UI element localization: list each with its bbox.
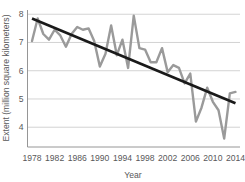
y-tick-label: 4 xyxy=(19,122,24,132)
x-tick-label: 1986 xyxy=(68,153,87,163)
x-tick-label: 2002 xyxy=(158,153,177,163)
x-tick-label: 1982 xyxy=(45,153,64,163)
chart-figure: 45678 1978198219861990199419982002200620… xyxy=(0,0,245,182)
x-axis-title: Year xyxy=(124,170,142,180)
x-tick-label: 2014 xyxy=(226,153,245,163)
x-tick-label: 2006 xyxy=(181,153,200,163)
sea-ice-extent-line-chart: 45678 1978198219861990199419982002200620… xyxy=(0,0,245,182)
y-tick-label: 5 xyxy=(19,94,24,104)
x-tick-label: 1978 xyxy=(22,153,41,163)
x-tick-label: 1994 xyxy=(113,153,132,163)
y-axis-title: Extent (million square kilometers) xyxy=(1,14,11,141)
y-tick-label: 8 xyxy=(19,9,24,19)
x-tick-label: 1998 xyxy=(135,153,154,163)
y-tick-label: 7 xyxy=(19,37,24,47)
x-tick-label: 2010 xyxy=(203,153,222,163)
x-tick-label: 1990 xyxy=(90,153,109,163)
y-tick-label: 6 xyxy=(19,66,24,76)
